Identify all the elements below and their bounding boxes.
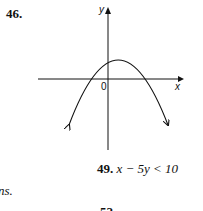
- problem-49-expression: x − 5y < 10: [117, 161, 179, 176]
- problem-number-49: 49.: [97, 161, 113, 176]
- x-axis-label: x: [175, 81, 180, 92]
- parabola-curve: [69, 60, 168, 125]
- problem-49: 49. x − 5y < 10: [97, 161, 178, 177]
- problem-52: 52.: [100, 204, 116, 211]
- y-axis-label: y: [99, 4, 104, 15]
- text-fragment: ns.: [0, 183, 13, 199]
- problem-number-52: 52.: [100, 204, 116, 211]
- parabola-graph: [0, 0, 203, 160]
- origin-label: 0: [101, 81, 107, 92]
